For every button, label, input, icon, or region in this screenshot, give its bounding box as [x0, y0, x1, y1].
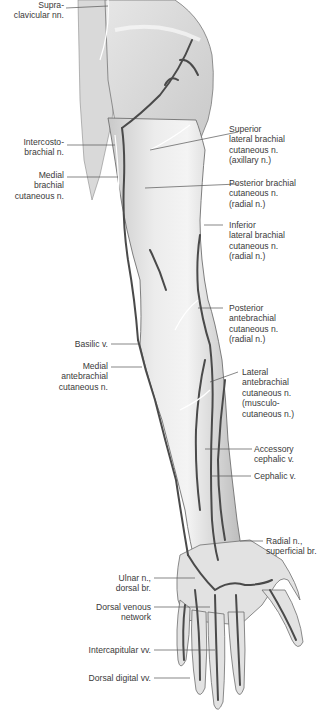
- label-inferior-lateral-brachial-cutaneous-nerve: Inferior lateral brachial cutaneous n. (…: [229, 220, 285, 262]
- label-basilic-vein: Basilic v.: [75, 339, 108, 349]
- label-radial-nerve-superficial-branch: Radial n., superficial br.: [266, 536, 317, 557]
- label-dorsal-venous-network: Dorsal venous network: [96, 602, 151, 623]
- label-ulnar-nerve-dorsal-branch: Ulnar n., dorsal br.: [116, 573, 151, 594]
- label-posterior-antebrachial-cutaneous-nerve: Posterior antebrachial cutaneous n. (rad…: [229, 303, 278, 345]
- label-posterior-brachial-cutaneous-nerve: Posterior brachial cutaneous n. (radial …: [229, 178, 296, 209]
- label-medial-brachial-cutaneous-nerve: Medial brachial cutaneous n.: [15, 170, 64, 201]
- label-accessory-cephalic-vein: Accessory cephalic v.: [254, 444, 294, 465]
- label-cephalic-vein: Cephalic v.: [254, 471, 296, 481]
- label-intercostobrachial-nerve: Intercosto- brachial n.: [23, 137, 64, 158]
- label-lateral-antebrachial-cutaneous-nerve: Lateral antebrachial cutaneous n. (muscu…: [242, 367, 294, 419]
- label-superior-lateral-brachial-cutaneous-nerve: Superior lateral brachial cutaneous n. (…: [229, 124, 285, 166]
- label-medial-antebrachial-cutaneous-nerve: Medial antebrachial cutaneous n.: [59, 361, 108, 392]
- arm-illustration: [0, 0, 327, 719]
- label-dorsal-digital-veins: Dorsal digital vv.: [89, 673, 151, 683]
- label-supraclavicular-nerves: Supra- clavicular nn.: [14, 0, 64, 21]
- label-intercapitular-veins: Intercapitular vv.: [89, 645, 151, 655]
